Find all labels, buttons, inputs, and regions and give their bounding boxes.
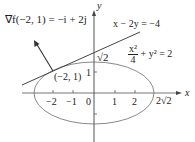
x-axis-arrow-icon bbox=[176, 91, 182, 95]
point-label: (−2, 1) bbox=[54, 72, 81, 82]
y-axis-label: y bbox=[97, 1, 101, 11]
ellipse-equation: x² 4 + y² = 2 bbox=[128, 44, 172, 65]
y-axis-arrow-icon bbox=[92, 10, 96, 16]
sqrt2-label: √2 bbox=[97, 52, 109, 63]
x-tick-label-1: 1 bbox=[112, 97, 117, 107]
gradient-label: ∇f(−2, 1) = −i + 2j bbox=[5, 14, 87, 25]
gradient-vector bbox=[36, 43, 53, 71]
tangent-line-label: x − 2y = −4 bbox=[113, 19, 160, 29]
x-tick-label-0: 0 bbox=[86, 97, 91, 107]
x-tick-label-neg2: −2 bbox=[46, 97, 57, 107]
fraction-denominator: 4 bbox=[131, 55, 136, 65]
x-tick-label-neg1: −1 bbox=[66, 97, 77, 107]
two-sqrt2-label: 2√2 bbox=[156, 96, 172, 106]
equation-rest: + y² = 2 bbox=[141, 48, 173, 59]
y-tick-label-1: 1 bbox=[86, 68, 91, 78]
ellipse-fraction: x² 4 bbox=[128, 44, 138, 65]
gradient-arrowhead-icon bbox=[34, 40, 40, 47]
x-tick-label-2: 2 bbox=[132, 97, 137, 107]
x-axis-label: x bbox=[185, 88, 189, 98]
